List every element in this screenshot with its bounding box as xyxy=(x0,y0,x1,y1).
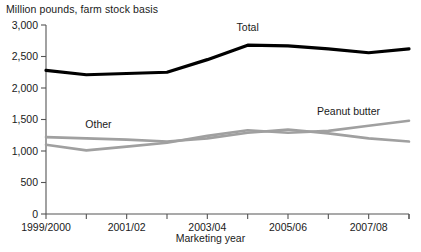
series-label-other: Other xyxy=(85,118,112,130)
y-tick-label: 1,000 xyxy=(12,145,38,157)
y-tick-label: 2,000 xyxy=(12,82,38,94)
y-tick-label: 2,500 xyxy=(12,50,38,62)
line-chart-plot: 05001,0001,5002,0002,5003,0001999/200020… xyxy=(0,0,421,252)
x-axis-title: Marketing year xyxy=(0,232,421,244)
y-tick-label: 500 xyxy=(20,176,38,188)
y-tick-label: 3,000 xyxy=(12,19,38,31)
series-line-total xyxy=(46,45,409,75)
y-tick-label: 0 xyxy=(32,208,38,220)
series-label-total: Total xyxy=(237,21,259,33)
series-label-peanut-butter: Peanut butter xyxy=(317,105,381,117)
chart-figure: Million pounds, farm stock basis 05001,0… xyxy=(0,0,421,252)
series-line-other xyxy=(46,130,409,142)
y-tick-label: 1,500 xyxy=(12,113,38,125)
